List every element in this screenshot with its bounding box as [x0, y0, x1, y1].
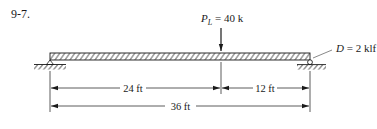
dimension-label-left-segment: 24 ft [123, 83, 143, 94]
dead-load-equals: = [344, 42, 356, 54]
pin-support-left [34, 60, 66, 70]
problem-label: 9-7. [11, 7, 30, 21]
load-equals: = [212, 12, 224, 24]
dimension-label-right-segment: 12 ft [255, 83, 275, 94]
dead-load-symbol: D [335, 42, 344, 54]
beam-diagram: 9-7. PL = 40 k D = 2 klf 24 ft 12 ft [0, 0, 377, 129]
roller-support-right [297, 60, 326, 70]
dead-load-value: 2 klf [356, 42, 377, 54]
distributed-load-label: D = 2 klf [335, 42, 376, 54]
distributed-load-leader [313, 50, 332, 58]
dimension-label-total-span: 36 ft [171, 101, 191, 112]
beam [50, 53, 310, 60]
point-load-label: PL = 40 k [200, 12, 244, 27]
load-value: 40 k [224, 12, 244, 24]
